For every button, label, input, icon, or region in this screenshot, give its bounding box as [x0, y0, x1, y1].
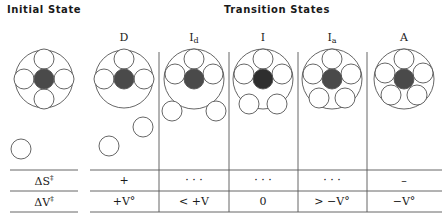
id-state-diagram: [162, 49, 226, 121]
free-ligand: [11, 139, 31, 159]
row-label-delta-s-text: ΔS: [35, 175, 50, 188]
cell-delta-s-a: –: [401, 174, 407, 187]
cell-delta-s-d: +: [119, 174, 128, 187]
ia-state-diagram: [302, 49, 362, 109]
cell-delta-s-id: · · ·: [185, 174, 202, 187]
cell-delta-s-ia: · · ·: [323, 174, 340, 187]
a-state-diagram: [374, 49, 434, 109]
row-label-delta-s: ΔS‡: [35, 174, 54, 188]
cell-delta-v-ia: > −V°: [314, 195, 349, 208]
double-dagger-sup: ‡: [50, 174, 54, 182]
row-label-delta-v-text: ΔV: [34, 196, 50, 209]
i-state-diagram: [233, 49, 293, 114]
row-label-delta-v: ΔV‡: [34, 195, 53, 209]
cell-delta-v-id: < +V: [179, 195, 209, 208]
double-dagger-sup: ‡: [50, 195, 54, 203]
cell-delta-v-i: 0: [260, 195, 267, 208]
cell-delta-v-d: +V°: [113, 195, 136, 208]
cell-delta-v-a: −V°: [393, 195, 416, 208]
cell-delta-s-i: · · ·: [254, 174, 271, 187]
mechanism-diagram: [0, 0, 444, 224]
initial-state-diagram: [11, 49, 74, 159]
d-state-diagram: [94, 49, 154, 156]
